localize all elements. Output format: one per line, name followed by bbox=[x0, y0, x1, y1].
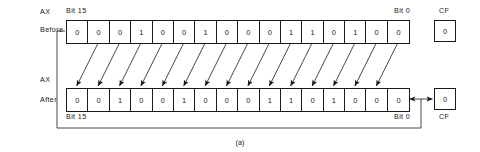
before-msb-label: Bit 15 bbox=[66, 7, 86, 14]
shift-arrow-8 bbox=[248, 43, 269, 86]
before-bit-14: 0 bbox=[88, 21, 109, 43]
before-register-label: AX bbox=[40, 8, 50, 15]
after-lsb-label: Bit 0 bbox=[394, 113, 410, 120]
after-bit-6: 1 bbox=[260, 89, 281, 111]
shift-arrow-1 bbox=[98, 43, 119, 86]
before-bit-15: 0 bbox=[67, 21, 88, 43]
shift-arrow-10 bbox=[291, 43, 312, 86]
before-bit-3: 0 bbox=[324, 21, 345, 43]
after-msb-label: Bit 15 bbox=[66, 113, 86, 120]
carry-flag-before-value: 0 bbox=[443, 27, 447, 36]
after-bit-13: 1 bbox=[110, 89, 131, 111]
after-bit-1: 0 bbox=[366, 89, 387, 111]
figure-caption: (a) bbox=[0, 138, 480, 147]
before-bit-7: 0 bbox=[238, 21, 259, 43]
after-bit-2: 0 bbox=[345, 89, 366, 111]
before-lsb-label: Bit 0 bbox=[394, 7, 410, 14]
register-before: 0001001000110100 bbox=[66, 20, 410, 44]
before-bit-11: 0 bbox=[153, 21, 174, 43]
shift-arrow-12 bbox=[334, 43, 355, 86]
before-bit-12: 1 bbox=[131, 21, 152, 43]
shift-arrow-6 bbox=[205, 43, 226, 86]
shift-arrows bbox=[77, 43, 398, 86]
before-bit-2: 1 bbox=[345, 21, 366, 43]
after-bit-8: 0 bbox=[217, 89, 238, 111]
after-flag-label: CF bbox=[439, 113, 449, 120]
shift-arrow-13 bbox=[355, 43, 376, 86]
shift-arrow-3 bbox=[141, 43, 162, 86]
before-bit-13: 0 bbox=[110, 21, 131, 43]
carry-flag-before: 0 bbox=[434, 20, 456, 42]
after-state-label: After bbox=[40, 96, 57, 103]
after-bit-0: 0 bbox=[388, 89, 409, 111]
shift-arrow-11 bbox=[312, 43, 333, 86]
shift-arrow-0 bbox=[77, 43, 98, 86]
after-bit-10: 1 bbox=[174, 89, 195, 111]
before-bit-6: 0 bbox=[260, 21, 281, 43]
before-bit-8: 0 bbox=[217, 21, 238, 43]
carry-flag-after-value: 0 bbox=[443, 95, 447, 104]
shift-arrow-4 bbox=[162, 43, 183, 86]
feedback-loop bbox=[57, 31, 421, 128]
before-bit-1: 0 bbox=[366, 21, 387, 43]
after-bit-14: 0 bbox=[88, 89, 109, 111]
before-flag-label: CF bbox=[439, 7, 449, 14]
shift-arrow-5 bbox=[184, 43, 205, 86]
before-bit-4: 1 bbox=[302, 21, 323, 43]
after-register-label: AX bbox=[40, 76, 50, 83]
after-bit-11: 0 bbox=[153, 89, 174, 111]
after-bit-4: 0 bbox=[302, 89, 323, 111]
shift-arrow-7 bbox=[227, 43, 248, 86]
register-after: 0010010001101000 bbox=[66, 88, 410, 112]
after-bit-12: 0 bbox=[131, 89, 152, 111]
after-bit-7: 0 bbox=[238, 89, 259, 111]
after-bit-15: 0 bbox=[67, 89, 88, 111]
shift-arrow-9 bbox=[269, 43, 290, 86]
before-bit-10: 0 bbox=[174, 21, 195, 43]
shift-arrow-2 bbox=[120, 43, 141, 86]
rotate-diagram: AX Before Bit 15 Bit 0 CF 00010010001101… bbox=[0, 0, 480, 152]
after-bit-5: 1 bbox=[281, 89, 302, 111]
after-bit-3: 1 bbox=[324, 89, 345, 111]
before-bit-5: 1 bbox=[281, 21, 302, 43]
after-bit-9: 0 bbox=[195, 89, 216, 111]
before-bit-0: 0 bbox=[388, 21, 409, 43]
shift-arrow-14 bbox=[376, 43, 397, 86]
before-bit-9: 1 bbox=[195, 21, 216, 43]
before-state-label: Before bbox=[40, 26, 63, 33]
carry-flag-after: 0 bbox=[434, 88, 456, 110]
